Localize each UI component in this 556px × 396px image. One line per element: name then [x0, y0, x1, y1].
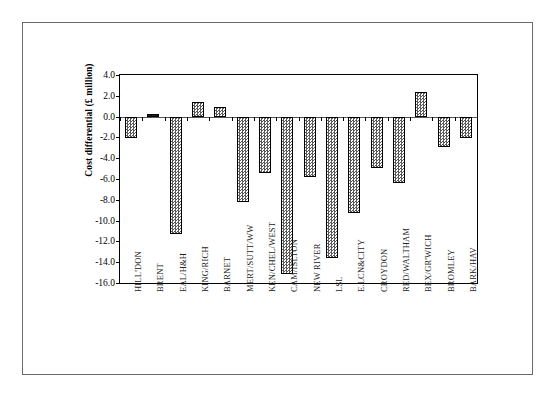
x-axis-category-label: CROYDON [379, 249, 389, 292]
x-axis-tick-mark [365, 117, 366, 121]
x-axis-category-label: BEX/GR'WICH [423, 234, 433, 292]
x-axis-category-label: BARNET [222, 257, 232, 292]
y-axis-tick-label: 2.0 [103, 91, 115, 101]
x-axis-category-label: BROMLEY [446, 249, 456, 292]
y-axis-tick-mark [116, 241, 120, 242]
x-axis-category-label: RED/WALTHAM [401, 228, 411, 292]
x-axis-tick-mark [410, 117, 411, 121]
x-axis-tick-mark [343, 117, 344, 121]
y-axis-tick-mark [116, 137, 120, 138]
y-axis-tick-label: -8.0 [100, 195, 115, 205]
y-axis-tick-mark [116, 179, 120, 180]
x-axis-tick-mark [209, 117, 210, 121]
y-axis-tick-mark [116, 75, 120, 76]
bar [147, 114, 159, 117]
x-axis-category-label: MERT/SUTT/WW [245, 224, 255, 292]
y-axis-tick-label: 0.0 [103, 112, 115, 122]
y-axis-tick-label: 4.0 [103, 70, 115, 80]
x-axis-tick-mark [455, 117, 456, 121]
x-axis-category-label: KING/RICH [200, 246, 210, 292]
bar [460, 117, 472, 139]
x-axis-category-label: CAM/ISLTON [289, 239, 299, 292]
x-axis-tick-mark [388, 117, 389, 121]
bar-chart: Cost differential (£ million) 4.02.00.0-… [23, 23, 534, 376]
x-axis-category-label: KEN/CHEL/WEST [267, 222, 277, 292]
x-axis-category-label: HILL'DON [133, 251, 143, 292]
bar [438, 117, 450, 147]
x-axis-category-label: E.LCN&CITY [356, 239, 366, 292]
x-axis-tick-mark [165, 117, 166, 121]
x-axis-tick-mark [276, 117, 277, 121]
x-axis-tick-mark [120, 117, 121, 121]
bar [304, 117, 316, 177]
y-axis-tick-mark [116, 158, 120, 159]
bar [259, 117, 271, 173]
bar [348, 117, 360, 214]
y-axis-tick-mark [116, 200, 120, 201]
x-axis-tick-mark [142, 117, 143, 121]
bar [371, 117, 383, 168]
x-axis-tick-mark [299, 117, 300, 121]
y-axis-tick-label: -2.0 [100, 132, 115, 142]
x-axis-tick-mark [232, 117, 233, 121]
x-axis-tick-mark [321, 117, 322, 121]
bar [237, 117, 249, 202]
x-axis-category-label: LSL [334, 276, 344, 292]
y-axis-tick-mark [116, 96, 120, 97]
x-axis-tick-mark [432, 117, 433, 121]
y-axis-tick-mark [116, 283, 120, 284]
x-axis-category-label: BARK/HAV [468, 247, 478, 292]
bar [125, 117, 137, 139]
y-axis-tick-label: -4.0 [100, 153, 115, 163]
x-axis-category-label: NEW RIVER [312, 243, 322, 292]
y-axis-title: Cost differential (£ million) [84, 40, 94, 200]
y-axis-tick-label: -14.0 [95, 257, 115, 267]
figure-outer-frame: Cost differential (£ million) 4.02.00.0-… [22, 22, 533, 375]
bar [415, 92, 427, 117]
y-axis-tick-label: -6.0 [100, 174, 115, 184]
x-axis-category-label: BRENT [155, 263, 165, 292]
x-axis-category-label: EAL/H&H [178, 253, 188, 292]
y-axis-tick-mark [116, 221, 120, 222]
y-axis-tick-label: -12.0 [95, 236, 115, 246]
x-axis-tick-mark [254, 117, 255, 121]
bar [192, 102, 204, 117]
y-axis-tick-label: -10.0 [95, 216, 115, 226]
bar [393, 117, 405, 184]
y-axis-tick-mark [116, 262, 120, 263]
x-axis-tick-mark [187, 117, 188, 121]
bar [170, 117, 182, 235]
bar [214, 107, 226, 116]
y-axis-tick-label: -16.0 [95, 278, 115, 288]
bar [326, 117, 338, 258]
